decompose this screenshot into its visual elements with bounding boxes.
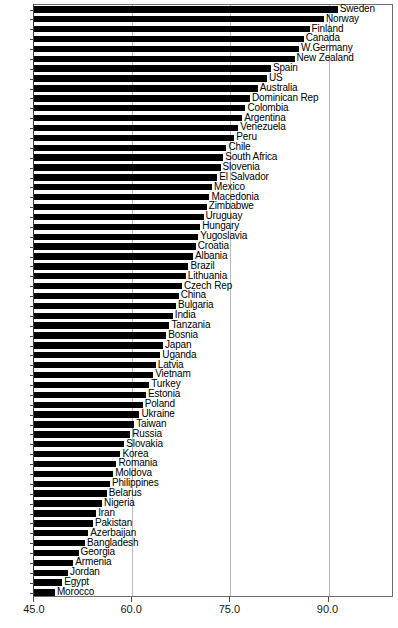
bar-row: Taiwan [34,420,394,429]
bar [34,164,221,170]
bar-row: Poland [34,400,394,409]
bar-row: Argentina [34,114,394,123]
bar [34,421,134,427]
bar-row: Romania [34,460,394,469]
bar [34,105,245,111]
bar [34,500,102,506]
bar [34,204,207,210]
bar-row: Nigeria [34,499,394,508]
bar-row: South Africa [34,153,394,162]
bar [34,322,169,328]
x-axis-tick [131,597,132,602]
bar [34,510,96,516]
bar [34,85,258,91]
bar [34,303,176,309]
bar [34,253,193,259]
bar [34,342,163,348]
x-axis-tick-label: 60.0 [120,603,141,616]
bar [34,451,120,457]
bar-row: Belarus [34,489,394,498]
bar [34,194,209,200]
bar [34,392,146,398]
bar-row: Slovakia [34,440,394,449]
bar-row: Spain [34,64,394,73]
bar-row: Ukraine [34,410,394,419]
bar [34,224,200,230]
bar-row: US [34,74,394,83]
bar-row: Iran [34,509,394,518]
bar [34,214,204,220]
x-axis-tick [33,597,34,602]
bar-row: Bosnia [34,331,394,340]
bar-row: Latvia [34,361,394,370]
bar [34,154,223,160]
bar [34,283,182,289]
bar [34,6,338,12]
bar [34,471,113,477]
bar [34,520,93,526]
bar [34,411,139,417]
bar [34,75,267,81]
bar [34,362,156,368]
x-axis: 45.060.075.090.0 [33,597,393,627]
x-axis-tick [328,597,329,602]
bar [34,234,198,240]
bar-row: Russia [34,430,394,439]
bar [34,540,85,546]
bar [34,402,143,408]
bar [34,115,242,121]
bar-row: Pakistan [34,519,394,528]
bar-row: Australia [34,84,394,93]
bar-row: Korea [34,450,394,459]
bar [34,125,238,131]
bar [34,589,55,595]
bar [34,382,149,388]
bar-row: China [34,292,394,301]
bar-row: Morocco [34,588,394,597]
bar-chart: SwedenNorwayFinlandCanadaW.GermanyNew Ze… [0,0,398,628]
bar [34,36,304,42]
bar-row: Colombia [34,104,394,113]
bar [34,530,88,536]
bar [34,481,110,487]
bar [34,372,153,378]
bar [34,65,271,71]
bar [34,490,107,496]
bar [34,570,68,576]
bar-row: Vietnam [34,371,394,380]
bar [34,461,116,467]
bar-row: Chile [34,143,394,152]
bar [34,16,324,22]
bar-row: Uganda [34,351,394,360]
bar-row: Bulgaria [34,302,394,311]
bar-category-label: Morocco [57,586,94,597]
bar-row: Finland [34,25,394,34]
bar-row: Peru [34,133,394,142]
bar [34,174,217,180]
bar [34,550,79,556]
bar-row: Turkey [34,381,394,390]
bar-row: Japan [34,341,394,350]
bar-row: Philippines [34,479,394,488]
bar [34,431,130,437]
x-axis-tick-label: 45.0 [23,603,44,616]
bar [34,293,179,299]
plot-area: SwedenNorwayFinlandCanadaW.GermanyNew Ze… [33,4,393,597]
bar [34,273,186,279]
x-axis-tick [229,597,230,602]
bar-category-label: New Zealand [297,52,354,63]
bars-layer: SwedenNorwayFinlandCanadaW.GermanyNew Ze… [34,5,392,596]
bar [34,352,160,358]
bar-row: Moldova [34,470,394,479]
bar-row: Czech Rep [34,282,394,291]
bar-row: Slovenia [34,163,394,172]
bar [34,243,196,249]
bar-row: Estonia [34,390,394,399]
bar [34,46,299,52]
bar [34,135,234,141]
x-axis-tick-label: 75.0 [219,603,240,616]
bar-row: Venezuela [34,124,394,133]
bar [34,579,62,585]
bar [34,560,73,566]
x-axis-tick-label: 90.0 [317,603,338,616]
